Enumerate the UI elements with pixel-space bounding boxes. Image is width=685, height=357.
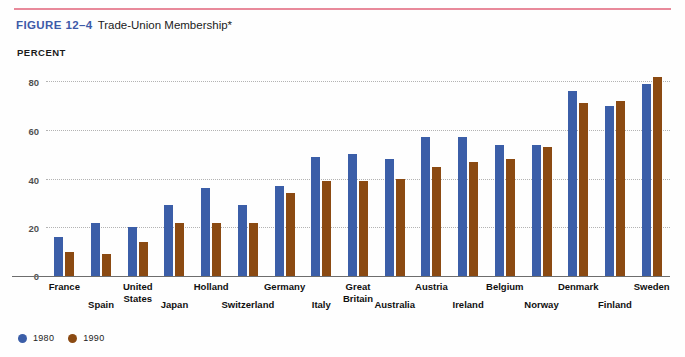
bar-1980 [605, 106, 614, 276]
bar-1980 [238, 205, 247, 276]
bar-group [421, 62, 441, 276]
bar-1980 [311, 157, 320, 276]
bar-1990 [469, 162, 478, 276]
bar-1990 [212, 223, 221, 277]
bar-1990 [175, 223, 184, 277]
bar-group [164, 62, 184, 276]
x-axis-label: Japan [133, 299, 215, 311]
bar-1990 [249, 223, 258, 277]
legend-label: 1980 [33, 333, 54, 343]
x-axis-label: Austria [390, 281, 472, 293]
x-axis-label: Germany [243, 281, 325, 293]
legend-item[interactable]: 1990 [68, 333, 104, 343]
bar-group [385, 62, 405, 276]
x-axis-label: Australia [354, 299, 436, 311]
bar-1980 [201, 188, 210, 276]
x-axis-label: Switzerland [207, 299, 289, 311]
bar-1980 [348, 154, 357, 276]
x-axis-label: France [23, 281, 105, 293]
bar-1980 [164, 205, 173, 276]
bar-1990 [65, 252, 74, 276]
x-axis-label-line: Finland [574, 299, 656, 311]
bar-1990 [579, 103, 588, 276]
bar-1980 [642, 84, 651, 276]
bar-1990 [396, 179, 405, 276]
x-axis-label-line: Norway [500, 299, 582, 311]
figure-number: FIGURE 12–4 [16, 19, 93, 31]
bar-group [128, 62, 148, 276]
x-axis-label: Denmark [537, 281, 619, 293]
circle-swatch-icon [68, 334, 77, 343]
bar-1990 [432, 167, 441, 276]
legend-item[interactable]: 1980 [18, 333, 54, 343]
y-axis-unit-label: PERCENT [17, 47, 66, 58]
bar-group [91, 62, 111, 276]
x-axis-label: Finland [574, 299, 656, 311]
x-axis-label: Norway [500, 299, 582, 311]
bar-group [495, 62, 515, 276]
bar-group [54, 62, 74, 276]
bar-1980 [532, 145, 541, 276]
bar-1980 [128, 227, 137, 276]
plot-area: 020406080 [46, 62, 670, 276]
bar-groups [46, 62, 670, 276]
y-tick-label-20: 20 [28, 223, 39, 234]
x-axis-label-line: Austria [390, 281, 472, 293]
x-axis-label-line: Denmark [537, 281, 619, 293]
bar-group [201, 62, 221, 276]
bar-1980 [54, 237, 63, 276]
x-axis-label-line: France [23, 281, 105, 293]
bar-group [642, 62, 662, 276]
bar-1980 [495, 145, 504, 276]
bar-1980 [421, 137, 430, 276]
bar-group [532, 62, 552, 276]
bar-1990 [102, 254, 111, 276]
bar-1990 [286, 193, 295, 276]
top-rule-divider [14, 8, 671, 10]
bar-1980 [458, 137, 467, 276]
x-axis-label: Holland [170, 281, 252, 293]
bar-group [458, 62, 478, 276]
bar-1990 [322, 181, 331, 276]
x-axis-label-line: Great [317, 281, 399, 293]
x-axis-label-line: Switzerland [207, 299, 289, 311]
x-axis-label-line: Germany [243, 281, 325, 293]
y-tick-label-80: 80 [28, 77, 39, 88]
page-title: Trade-Union Membership* [98, 19, 232, 31]
figure-container: FIGURE 12–4Trade-Union Membership* PERCE… [0, 0, 685, 357]
bar-group [605, 62, 625, 276]
bar-1990 [139, 242, 148, 276]
x-axis-label: Ireland [427, 299, 509, 311]
x-axis-label-line: Holland [170, 281, 252, 293]
x-axis-label: Sweden [611, 281, 685, 293]
x-axis-label-line: Belgium [464, 281, 546, 293]
x-axis-label-line: Sweden [611, 281, 685, 293]
x-axis-labels: FranceSpainUnitedStatesJapanHollandSwitz… [46, 281, 670, 317]
bar-group [238, 62, 258, 276]
y-tick-label-40: 40 [28, 174, 39, 185]
legend-label: 1990 [83, 333, 104, 343]
x-axis-label-line: Australia [354, 299, 436, 311]
y-tick-label-60: 60 [28, 126, 39, 137]
x-axis-baseline [12, 276, 670, 277]
bar-group [568, 62, 588, 276]
chart-legend: 19801990 [18, 333, 104, 343]
bar-group [348, 62, 368, 276]
x-axis-label-line: Ireland [427, 299, 509, 311]
bar-1980 [385, 159, 394, 276]
figure-caption: FIGURE 12–4Trade-Union Membership* [16, 19, 232, 32]
bar-1990 [543, 147, 552, 276]
x-axis-label: Belgium [464, 281, 546, 293]
bar-group [311, 62, 331, 276]
x-axis-label-line: Japan [133, 299, 215, 311]
x-axis-label-line: United [97, 281, 179, 293]
circle-swatch-icon [18, 334, 27, 343]
bar-1980 [91, 223, 100, 277]
bar-1990 [359, 181, 368, 276]
bar-1980 [568, 91, 577, 276]
bar-group [275, 62, 295, 276]
bar-1990 [506, 159, 515, 276]
bar-1980 [275, 186, 284, 276]
bar-1990 [653, 77, 662, 276]
bar-1990 [616, 101, 625, 276]
